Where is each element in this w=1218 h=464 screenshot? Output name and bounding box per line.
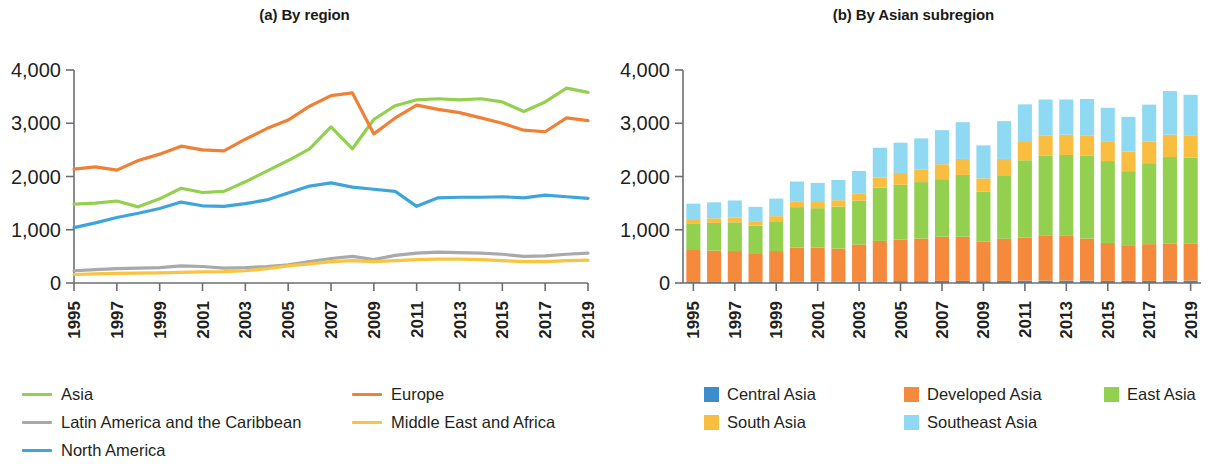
legend-label: Europe: [391, 385, 444, 404]
stacked-bar: [1101, 108, 1115, 283]
bar-segment-developed-asia: [976, 242, 990, 281]
bar-segment-southeast-asia: [1184, 95, 1198, 135]
stacked-bar: [831, 180, 845, 283]
y-tick-label: 3,000: [620, 112, 670, 134]
bar-segment-developed-asia: [811, 248, 825, 282]
bar-segment-southeast-asia: [1121, 117, 1135, 152]
bar-segment-southeast-asia: [707, 202, 721, 218]
stacked-bar: [873, 148, 887, 283]
legend-label: North America: [61, 441, 166, 460]
bar-segment-south-asia: [956, 159, 970, 175]
x-tick-label: 2009: [974, 301, 993, 339]
legend-label: Latin America and the Caribbean: [61, 413, 301, 432]
bar-segment-south-asia: [1080, 136, 1094, 156]
legend-item-developed-asia[interactable]: Developed Asia: [904, 385, 1104, 404]
legend-label: Southeast Asia: [927, 413, 1037, 432]
bar-segment-developed-asia: [1101, 243, 1115, 281]
x-tick-label: 2015: [493, 301, 512, 339]
legend-item-southeast-asia[interactable]: Southeast Asia: [904, 413, 1104, 432]
bar-segment-south-asia: [1101, 142, 1115, 161]
bar-segment-south-asia: [769, 216, 783, 221]
bar-segment-south-asia: [873, 178, 887, 188]
stacked-bar: [728, 200, 742, 283]
legend-label: Asia: [61, 385, 93, 404]
y-tick-label: 0: [659, 272, 670, 294]
x-tick-label: 1997: [726, 301, 745, 339]
stacked-bar: [1184, 95, 1198, 283]
bar-segment-southeast-asia: [748, 207, 762, 221]
legend-item-east-asia[interactable]: East Asia: [1104, 385, 1196, 404]
bar-segment-southeast-asia: [686, 204, 700, 219]
bar-segment-southeast-asia: [831, 180, 845, 200]
bar-segment-southeast-asia: [1080, 99, 1094, 136]
legend-item-south-asia[interactable]: South Asia: [704, 413, 904, 432]
bar-segment-southeast-asia: [976, 145, 990, 178]
y-tick-label: 1,000: [11, 219, 61, 241]
legend-item-asia[interactable]: Asia: [22, 385, 352, 404]
bar-segment-south-asia: [1059, 135, 1073, 155]
bar-segment-southeast-asia: [997, 121, 1011, 159]
bar-segment-developed-asia: [894, 240, 908, 282]
bar-segment-developed-asia: [1059, 236, 1073, 281]
bar-segment-south-asia: [728, 218, 742, 223]
x-tick-label: 2013: [451, 301, 470, 339]
bar-segment-southeast-asia: [1163, 91, 1177, 135]
bar-segment-developed-asia: [790, 248, 804, 282]
bar-segment-east-asia: [1018, 160, 1032, 237]
bar-segment-south-asia: [686, 219, 700, 223]
x-tick-label: 2007: [933, 301, 952, 339]
x-tick-label: 2005: [892, 301, 911, 339]
bar-segment-east-asia: [811, 208, 825, 247]
legend-line-icon: [22, 421, 52, 424]
legend-label: South Asia: [727, 413, 806, 432]
bar-segment-south-asia: [790, 201, 804, 207]
stacked-bar: [686, 204, 700, 283]
stacked-bar: [1080, 99, 1094, 283]
stacked-bar: [852, 171, 866, 283]
bar-segment-south-asia: [1142, 141, 1156, 163]
bar-segment-developed-asia: [728, 251, 742, 282]
bar-segment-southeast-asia: [728, 200, 742, 217]
x-tick-label: 2019: [579, 301, 598, 339]
legend-label: East Asia: [1127, 385, 1196, 404]
panel-b-legend: Central AsiaDeveloped AsiaEast AsiaSouth…: [609, 385, 1218, 432]
bar-segment-east-asia: [1184, 158, 1198, 244]
bar-segment-east-asia: [1142, 163, 1156, 244]
legend-item-latin-america-and-the-caribbean[interactable]: Latin America and the Caribbean: [22, 413, 352, 432]
bar-segment-east-asia: [956, 175, 970, 237]
figure-container: (a)By region 4,0003,0002,0001,0000199519…: [0, 0, 1218, 464]
x-tick-label: 1997: [108, 301, 127, 339]
bar-segment-east-asia: [1039, 155, 1053, 235]
bar-segment-south-asia: [1184, 135, 1198, 157]
y-tick-label: 4,000: [620, 59, 670, 81]
stacked-bar: [935, 130, 949, 283]
x-tick-label: 2011: [408, 301, 427, 338]
stacked-bar: [976, 145, 990, 283]
y-tick-label: 0: [50, 272, 61, 294]
x-tick-label: 2015: [1099, 301, 1118, 339]
bar-segment-east-asia: [873, 188, 887, 241]
series-line-north-america: [74, 183, 588, 228]
bar-segment-developed-asia: [769, 251, 783, 282]
bar-segment-east-asia: [686, 223, 700, 250]
bar-segment-developed-asia: [1163, 243, 1177, 280]
x-tick-label: 2009: [365, 301, 384, 339]
legend-item-central-asia[interactable]: Central Asia: [704, 385, 904, 404]
stacked-bar: [707, 202, 721, 283]
bar-segment-south-asia: [1121, 151, 1135, 171]
legend-item-north-america[interactable]: North America: [22, 441, 352, 460]
legend-item-europe[interactable]: Europe: [352, 385, 555, 404]
bar-segment-developed-asia: [707, 251, 721, 282]
x-tick-label: 1999: [767, 301, 786, 339]
bar-segment-developed-asia: [935, 237, 949, 281]
x-tick-label: 2019: [1182, 301, 1201, 339]
legend-label: Middle East and Africa: [391, 413, 555, 432]
legend-item-middle-east-and-africa[interactable]: Middle East and Africa: [352, 413, 555, 432]
stacked-bar: [1121, 117, 1135, 283]
x-tick-label: 2003: [236, 301, 255, 339]
bar-segment-east-asia: [728, 222, 742, 251]
bar-segment-developed-asia: [997, 239, 1011, 281]
bar-segment-southeast-asia: [1101, 108, 1115, 142]
x-tick-label: 1995: [65, 301, 84, 339]
bar-segment-southeast-asia: [956, 122, 970, 159]
